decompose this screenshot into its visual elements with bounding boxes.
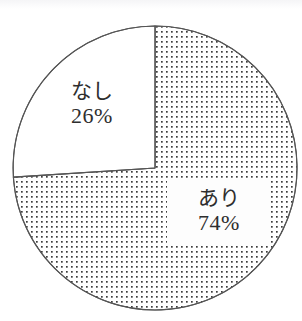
pie-label-ari: あり 74% [167, 186, 271, 236]
pie-label-ari-name: あり [167, 186, 271, 210]
pie-chart-figure: あり 74% なし 26% [0, 0, 302, 321]
pie-label-nashi-value: 26% [56, 103, 128, 129]
pie-chart-canvas [0, 0, 302, 321]
pie-label-nashi-name: なし [56, 79, 128, 103]
pie-label-ari-value: 74% [167, 210, 271, 236]
pie-label-nashi: なし 26% [56, 79, 128, 129]
